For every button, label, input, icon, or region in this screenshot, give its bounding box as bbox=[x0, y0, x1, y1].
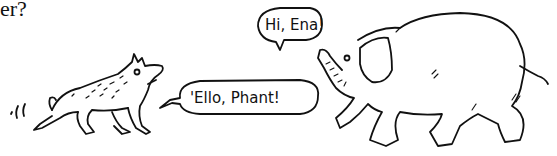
motion-lines-icon bbox=[11, 104, 25, 118]
elephant-icon bbox=[318, 13, 548, 146]
illustration: 'Ello, Phant! Hi, Ena! bbox=[0, 0, 557, 156]
hyena-speech-text: 'Ello, Phant! bbox=[190, 89, 280, 107]
hyena-icon bbox=[34, 54, 163, 134]
elephant-speech-text: Hi, Ena! bbox=[265, 16, 324, 34]
